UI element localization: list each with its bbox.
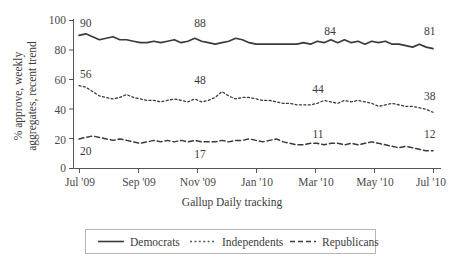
x-axis-title: Gallup Daily tracking [182,196,283,209]
y-axis-title-line2: aggregates, recent trend [26,41,39,151]
series-line-independents [79,86,433,113]
x-tick-label-jul09: Jul '09 [65,176,95,188]
x-tick-label-sep09: Sep '09 [122,176,156,189]
chart-figure: % approve, weekly aggregates, recent tre… [0,0,451,263]
x-tick-label-nov09: Nov '09 [180,176,217,188]
series-group [79,34,433,151]
annotation-republicans-start: 20 [80,145,92,157]
line-chart-canvas: % approve, weekly aggregates, recent tre… [0,0,451,263]
annotation-republicans-late: 11 [312,128,323,140]
annotation-independents-middle: 48 [194,74,206,86]
annotation-democrats-start: 90 [80,17,92,29]
series-line-democrats [79,34,433,49]
x-tick-label-jan10: Jan '10 [241,176,273,188]
x-tick-marks [80,169,434,174]
y-tick-marks [69,21,74,169]
legend-label-independents[interactable]: Independents [222,236,284,249]
y-tick-label-20: 20 [55,134,67,146]
y-axis-title: % approve, weekly aggregates, recent tre… [12,41,39,151]
chart-legend: Democrats Independents Republicans [86,230,380,254]
y-axis-title-line1: % approve, weekly [12,52,25,141]
y-tick-label-80: 80 [55,44,67,56]
annotation-republicans-end: 12 [424,128,436,140]
y-tick-labels: 100 80 60 40 20 0 [49,14,67,174]
y-tick-label-40: 40 [55,104,67,116]
x-tick-label-mar10: Mar '10 [298,176,334,188]
value-annotations: 90 88 84 81 56 48 44 38 20 17 11 12 [80,17,436,160]
x-tick-label-may10: May '10 [356,176,394,189]
annotation-republicans-middle: 17 [194,148,206,160]
legend-label-republicans[interactable]: Republicans [322,236,379,249]
annotation-democrats-middle: 88 [194,17,206,29]
y-tick-label-60: 60 [55,74,67,86]
annotation-democrats-late: 84 [324,25,336,37]
annotation-independents-late: 44 [312,83,324,95]
y-tick-label-0: 0 [60,162,66,174]
x-tick-labels: Jul '09 Sep '09 Nov '09 Jan '10 Mar '10 … [65,176,446,189]
series-line-republicans [79,136,433,151]
annotation-democrats-end: 81 [424,25,436,37]
y-tick-label-100: 100 [49,14,67,26]
legend-label-democrats[interactable]: Democrats [130,236,180,248]
x-tick-label-jul10: Jul '10 [416,176,446,188]
annotation-independents-end: 38 [424,90,436,102]
annotation-independents-start: 56 [80,68,92,80]
